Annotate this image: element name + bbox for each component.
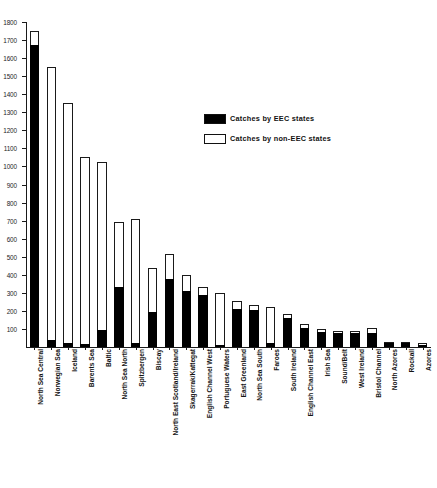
- bar-west-ireland: [350, 331, 360, 347]
- bar-skagerrak-kattegat: [182, 275, 192, 347]
- y-axis-tick-label: 1800: [3, 19, 17, 26]
- bar-spitzbergen: [131, 219, 141, 347]
- y-axis-tick-label: 100: [7, 325, 17, 332]
- bar-segment-eec: [367, 333, 377, 347]
- bar-segment-eec: [114, 287, 124, 347]
- bar-north-sea-south: [249, 305, 259, 347]
- x-axis-label: North Azores: [391, 349, 398, 390]
- bar-segment-non-eec: [47, 67, 57, 347]
- bar-english-channel-west: [198, 287, 208, 347]
- y-axis-tick-label: 1600: [3, 55, 17, 62]
- bar-segment-non-eec: [80, 157, 90, 347]
- legend-label-eec: Catches by EEC states: [230, 114, 314, 123]
- plot-area: 1800170016001500140013001200110010009008…: [26, 22, 431, 347]
- legend-swatch-hollow-icon: [204, 134, 226, 144]
- bar-faroes: [266, 307, 276, 347]
- y-axis-tick-label: 1300: [3, 109, 17, 116]
- x-axis-label: Biscay: [155, 349, 162, 370]
- x-axis-label: Faroes: [273, 349, 280, 371]
- y-axis-tick-label: 200: [7, 307, 17, 314]
- x-axis-labels: North Sea CentralNorwegian SeaIcelandBar…: [26, 349, 431, 488]
- y-axis-tick-label: 1000: [3, 163, 17, 170]
- bar-segment-eec: [350, 333, 360, 347]
- x-axis-label: Baltic: [105, 349, 112, 367]
- bar-segment-eec: [283, 318, 293, 347]
- y-axis-tick-label: 300: [7, 289, 17, 296]
- chart-figure: 1800170016001500140013001200110010009008…: [0, 0, 437, 488]
- bar-east-greenland: [232, 301, 242, 347]
- x-axis-label: North Sea North: [121, 349, 128, 400]
- bar-north-sea-central: [30, 31, 40, 347]
- legend-item-eec: Catches by EEC states: [204, 113, 384, 124]
- bar-segment-non-eec: [97, 162, 107, 347]
- bar-iceland: [63, 103, 73, 347]
- legend-swatch-filled-icon: [204, 114, 226, 124]
- x-axis-label: Rockall: [408, 349, 415, 372]
- y-axis-tick-label: 1100: [4, 145, 17, 152]
- bar-segment-eec: [333, 333, 343, 347]
- bar-segment-eec: [317, 332, 327, 347]
- x-axis-label: North Sea Central: [37, 349, 44, 405]
- bar-north-sea-north: [114, 222, 124, 347]
- bar-english-channel-east: [300, 324, 310, 347]
- x-axis-label: Bristol Channel: [375, 349, 382, 398]
- x-axis-label: North Sea South: [256, 349, 263, 401]
- x-axis-label: Irish Sea: [324, 349, 331, 377]
- bar-north-east-scotland-ireland: [165, 254, 175, 347]
- y-axis-tick-label: 500: [7, 253, 17, 260]
- bar-segment-eec: [47, 340, 57, 347]
- bar-segment-eec: [232, 309, 242, 347]
- y-axis-tick-label: 1500: [3, 73, 17, 80]
- bar-segment-eec: [30, 45, 40, 347]
- x-axis-label: English Channel West: [206, 349, 213, 418]
- bar-norwegian-sea: [47, 67, 57, 347]
- y-axis-tick-label: 600: [7, 235, 17, 242]
- x-axis-label: South Ireland: [290, 349, 297, 391]
- bar-segment-non-eec: [131, 219, 141, 347]
- x-axis-label: East Greenland: [240, 349, 247, 397]
- legend-label-non-eec: Catches by non-EEC states: [230, 134, 331, 143]
- bar-segment-eec: [97, 330, 107, 347]
- bar-segment-eec: [249, 310, 259, 347]
- x-axis-label: Sound/Belt: [341, 349, 348, 384]
- bar-segment-eec: [165, 279, 175, 347]
- x-axis-label: Skagerrak/Kattegat: [189, 349, 196, 409]
- bar-segment-eec: [300, 328, 310, 347]
- x-axis-label: Iceland: [71, 349, 78, 372]
- chart-legend: Catches by EEC states Catches by non-EEC…: [204, 113, 384, 153]
- y-axis-tick-label: 400: [7, 271, 17, 278]
- x-axis-label: Spitzbergen: [138, 349, 145, 387]
- y-axis-tick-label: 1400: [3, 91, 17, 98]
- y-axis-tick-label: 1200: [3, 127, 17, 134]
- bar-biscay: [148, 268, 158, 347]
- y-axis-tick-label: 800: [7, 199, 17, 206]
- bar-bristol-channel: [367, 328, 377, 347]
- x-axis-label: West Ireland: [358, 349, 365, 388]
- bar-segment-eec: [148, 312, 158, 347]
- bar-segment-non-eec: [63, 103, 73, 347]
- x-axis-line: [26, 347, 431, 348]
- bar-segment-eec: [182, 291, 192, 347]
- y-axis-tick-label: 1700: [3, 37, 17, 44]
- bar-sound-belt: [333, 331, 343, 347]
- bar-south-ireland: [283, 314, 293, 347]
- bar-portuguese-waters: [215, 293, 225, 347]
- legend-item-non-eec: Catches by non-EEC states: [204, 133, 384, 144]
- y-axis-tick-label: 700: [7, 217, 17, 224]
- x-axis-label: Norwegian Sea: [54, 349, 61, 396]
- bar-series-group: [26, 22, 431, 347]
- x-axis-label: Barents Sea: [88, 349, 95, 387]
- bar-segment-non-eec: [215, 293, 225, 347]
- x-axis-label: Azores: [425, 349, 432, 371]
- bar-segment-non-eec: [266, 307, 276, 347]
- x-axis-label: North East Scotland/Ireland: [172, 349, 179, 435]
- bar-baltic: [97, 162, 107, 347]
- bar-segment-eec: [198, 295, 208, 347]
- bar-irish-sea: [317, 329, 327, 347]
- x-axis-label: English Channel East: [307, 349, 314, 416]
- bar-barents-sea: [80, 157, 90, 347]
- y-axis-tick-label: 900: [7, 181, 17, 188]
- x-axis-label: Portuguese Waters: [223, 349, 230, 409]
